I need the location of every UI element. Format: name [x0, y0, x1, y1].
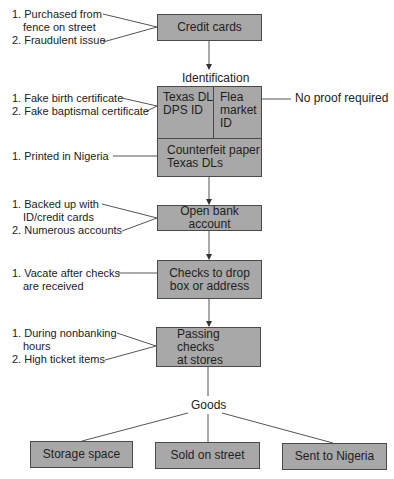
node-sold-on-street: Sold on street [155, 442, 260, 469]
node-texas-dl: Texas DL DPS ID [163, 91, 213, 117]
node-checks-to-drop-box: Checks to drop box or address [157, 260, 262, 299]
note-credit-cards: 1. Purchased from fence on street 2. Fra… [12, 8, 106, 47]
node-storage-space: Storage space [30, 441, 133, 468]
note-flea-market: No proof required [295, 92, 388, 105]
node-sent-to-nigeria: Sent to Nigeria [282, 443, 387, 470]
id-vertical-divider [213, 86, 214, 139]
fraud-flow-diagram: Credit cards 1. Purchased from fence on … [0, 0, 394, 479]
note-passing-checks: 1. During nonbanking hours 2. High ticke… [12, 327, 117, 366]
note-texas-dl: 1. Fake birth certificate 2. Fake baptis… [12, 92, 149, 118]
node-counterfeit-paper: Counterfeit paper Texas DLs [167, 144, 260, 170]
note-counterfeit: 1. Printed in Nigeria [12, 150, 109, 163]
node-passing-checks: Passing checks at stores [156, 327, 261, 367]
note-open-bank: 1. Backed up with ID/credit cards 2. Num… [12, 198, 122, 237]
note-checks-drop: 1. Vacate after checks are received [12, 267, 120, 293]
node-open-bank-account: Open bank account [157, 205, 262, 231]
node-credit-cards: Credit cards [157, 14, 262, 41]
identification-label: Identification [182, 71, 249, 85]
goods-label: Goods [191, 398, 226, 412]
node-flea-market-id: Flea market ID [220, 91, 257, 130]
node-credit-cards-label: Credit cards [177, 21, 242, 34]
id-horizontal-divider [157, 138, 262, 139]
